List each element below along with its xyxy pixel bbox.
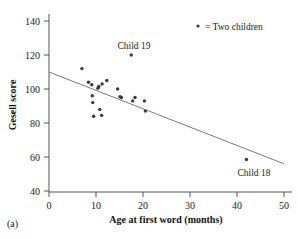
data-point [91,101,94,104]
data-point [131,99,134,102]
x-tick-label-30: 30 [185,200,195,211]
y-axis-title: Gesell score [7,79,18,130]
y-tick-label-140: 140 [25,16,40,27]
data-point [116,87,119,90]
child-18-label: Child 18 [238,168,271,178]
data-point [120,96,123,99]
data-point [91,94,94,97]
legend-label: = Two children [205,22,263,32]
data-point [92,115,95,118]
gesell-scatter-figure: Gesell score 140 120 100 80 60 40 0 10 [0,0,298,239]
data-point [144,109,147,112]
regression-line [49,72,284,164]
y-axis-ticks: 140 120 100 80 60 40 [25,16,49,197]
data-point [87,81,90,84]
data-point [245,158,248,161]
data-point [130,53,133,56]
y-tick-label-120: 120 [25,50,40,61]
y-tick-label-60: 60 [30,152,40,163]
legend-dot-marker [196,24,199,27]
scatter-chart: Gesell score 140 120 100 80 60 40 0 10 [0,0,298,239]
child-19-label: Child 19 [118,41,151,51]
data-point [100,82,103,85]
y-tick-label-40: 40 [30,186,40,197]
data-point [98,108,101,111]
data-point [80,67,83,70]
data-point [105,79,108,82]
x-tick-label-0: 0 [47,200,52,211]
legend: = Two children [196,22,263,32]
x-tick-label-20: 20 [138,200,148,211]
panel-label: (a) [7,218,18,230]
x-axis-title: Age at first word (months) [109,214,222,226]
y-tick-label-80: 80 [30,118,40,129]
x-tick-label-50: 50 [279,200,289,211]
data-point [100,114,103,117]
data-points-group [80,53,248,161]
y-tick-label-100: 100 [25,84,40,95]
x-tick-label-40: 40 [232,200,242,211]
x-tick-label-10: 10 [91,200,101,211]
x-axis-ticks: 0 10 20 30 40 50 [47,192,290,211]
data-point [90,83,93,86]
data-point [97,85,100,88]
data-point [133,96,136,99]
data-point [143,99,146,102]
